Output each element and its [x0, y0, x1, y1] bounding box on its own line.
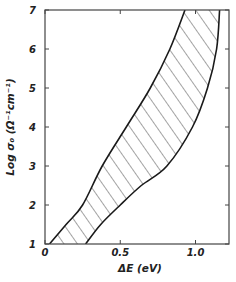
y-tick-label: 2 [29, 200, 36, 211]
x-axis-label: ΔE (eV) [117, 262, 162, 274]
y-tick-label: 1 [29, 239, 36, 250]
x-tick-label: 0 [42, 247, 49, 258]
y-tick-label: 7 [29, 5, 36, 16]
chart: 1234567 00.51.0 ΔE (eV) Log σ₀ (Ω⁻¹cm⁻¹) [0, 0, 236, 282]
y-tick-label: 5 [29, 83, 36, 94]
y-tick-label: 4 [28, 122, 36, 133]
x-tick-label: 1.0 [187, 247, 205, 258]
hatched-band [50, 10, 220, 244]
x-tick-label: 0.5 [111, 247, 129, 258]
y-tick-label: 6 [29, 44, 36, 55]
y-tick-label: 3 [29, 161, 36, 172]
y-axis-label: Log σ₀ (Ω⁻¹cm⁻¹) [4, 78, 16, 175]
hatch-fill [50, 10, 220, 244]
